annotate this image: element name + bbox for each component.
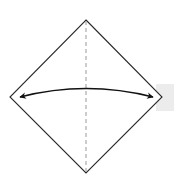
diamond-fold-diagram: [0, 0, 174, 175]
origami-diagram: [0, 0, 174, 175]
